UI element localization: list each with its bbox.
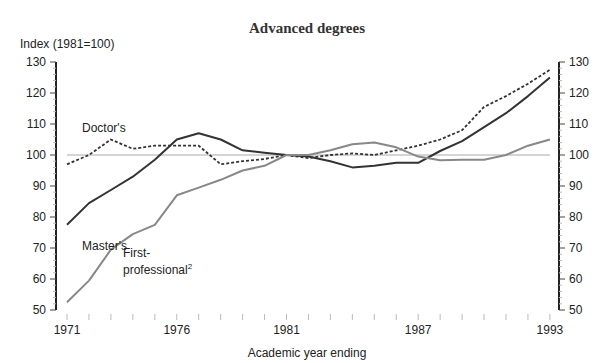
x-tick-label: 1987: [405, 323, 432, 337]
right-y-tick-label: 90: [569, 179, 583, 193]
right-y-tick-label: 60: [569, 272, 583, 286]
first-professional-line: [67, 140, 550, 303]
right-y-tick-label: 110: [569, 117, 588, 131]
footnote-superscript: 2: [188, 262, 193, 271]
doctors-label: Doctor's: [82, 121, 126, 135]
first-professional-label-line1: First-: [123, 246, 150, 260]
right-y-tick-label: 100: [569, 148, 589, 162]
left-y-tick-label: 120: [26, 86, 46, 100]
x-tick-label: 1993: [537, 323, 564, 337]
left-y-tick-label: 50: [33, 303, 47, 317]
left-y-tick-label: 110: [27, 117, 46, 131]
line-chart: 5050606070708080909010010011011012012013…: [0, 0, 614, 363]
left-y-tick-label: 130: [26, 55, 46, 69]
right-y-tick-label: 70: [569, 241, 583, 255]
left-y-tick-label: 60: [33, 272, 47, 286]
left-y-tick-label: 80: [33, 210, 47, 224]
x-tick-label: 1976: [163, 323, 190, 337]
left-y-tick-label: 70: [33, 241, 47, 255]
right-y-tick-label: 130: [569, 55, 589, 69]
x-tick-label: 1971: [54, 323, 81, 337]
left-y-tick-label: 90: [33, 179, 47, 193]
right-y-tick-label: 120: [569, 86, 589, 100]
masters-label: Master's: [82, 239, 127, 253]
first-professional-label-line2: professional2: [123, 262, 193, 277]
left-y-tick-label: 100: [26, 148, 46, 162]
right-y-tick-label: 80: [569, 210, 583, 224]
doctors-line: [67, 70, 550, 165]
masters-line: [67, 78, 550, 225]
right-y-tick-label: 50: [569, 303, 583, 317]
x-tick-label: 1981: [273, 323, 300, 337]
